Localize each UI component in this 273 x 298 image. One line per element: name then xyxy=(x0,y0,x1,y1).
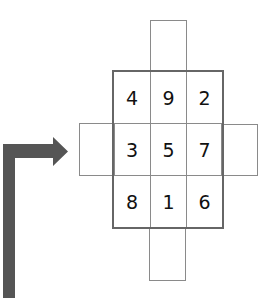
bent-arrow-icon xyxy=(0,0,273,298)
